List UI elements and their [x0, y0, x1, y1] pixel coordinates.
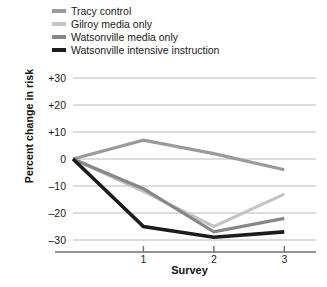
- y-tick-label: +20: [48, 99, 66, 111]
- y-tick-label: –10: [48, 180, 66, 192]
- data-series-line: [73, 159, 284, 232]
- plot-area: +30+20+100–10–20–30 123: [0, 0, 327, 287]
- data-series-line: [73, 140, 284, 170]
- y-tick-label: +10: [48, 126, 66, 138]
- data-series-group: [73, 140, 284, 237]
- y-tick-label: –30: [48, 234, 66, 246]
- x-axis-title: Survey: [0, 264, 327, 276]
- y-tick-label: +30: [48, 72, 66, 84]
- data-series-line: [73, 159, 284, 227]
- y-axis-ticks: +30+20+100–10–20–30: [48, 72, 66, 246]
- y-tick-label: –20: [48, 207, 66, 219]
- y-tick-label: 0: [60, 153, 66, 165]
- chart-figure: Tracy control Gilroy media only Watsonvi…: [0, 0, 327, 287]
- x-axis-ticks: 123: [141, 246, 288, 265]
